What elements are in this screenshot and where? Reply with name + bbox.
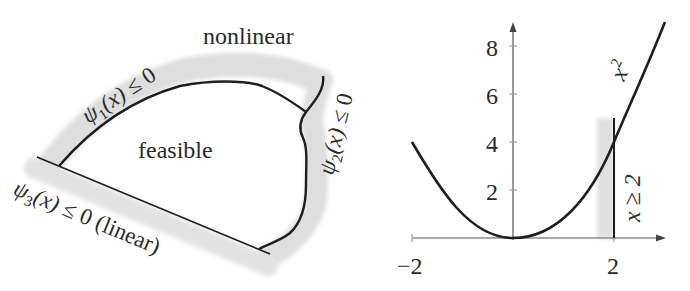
feasible-region-diagram: nonlinear feasible ψ1(x) ≤ 0 ψ2(x) ≤ 0 ψ… [9,23,361,266]
y-axis-arrow-icon [510,22,517,32]
x-axis-arrow-icon [656,235,666,242]
y-tick-label-2: 2 [486,179,498,205]
y-tick-label-8: 8 [486,35,498,61]
constraint-shade [597,118,614,238]
feasible-label: feasible [138,137,213,163]
nonlinear-label: nonlinear [203,23,294,49]
figure: nonlinear feasible ψ1(x) ≤ 0 ψ2(x) ≤ 0 ψ… [0,0,690,291]
parabola-curve [412,76,463,142]
x-tick-label-neg2: −2 [397,253,423,279]
y-tick-label-6: 6 [486,83,498,109]
x-tick-label-2: 2 [607,253,619,279]
curve-label-x-squared: x2 [603,56,636,85]
figure-svg: nonlinear feasible ψ1(x) ≤ 0 ψ2(x) ≤ 0 ψ… [0,0,690,291]
constraint-x-ge-2-label: x ≥ 2 [619,174,645,223]
y-tick-label-4: 4 [486,131,498,157]
parabola-plot: 2 4 6 8 −2 2 x ≥ 2 x2 [397,22,671,279]
